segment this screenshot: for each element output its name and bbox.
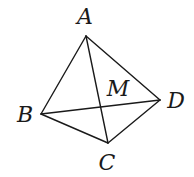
- vertex-label-C: C: [99, 150, 116, 175]
- edge-BD: [41, 100, 160, 114]
- labels: A B C D M: [16, 4, 185, 175]
- edge-CD: [108, 100, 160, 143]
- vertex-label-B: B: [16, 102, 33, 127]
- edge-AB: [41, 36, 86, 114]
- point-label-M: M: [106, 76, 130, 101]
- tetrahedron-diagram: A B C D M: [0, 0, 194, 177]
- edges: [41, 36, 160, 143]
- vertex-label-D: D: [166, 88, 185, 113]
- edge-BC: [41, 114, 108, 143]
- vertex-label-A: A: [75, 4, 93, 29]
